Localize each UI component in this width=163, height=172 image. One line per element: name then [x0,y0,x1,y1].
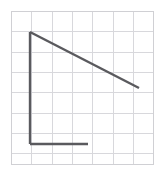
canvas-background [0,0,163,172]
figure-canvas [0,0,163,172]
grid-figure-svg [0,0,163,172]
